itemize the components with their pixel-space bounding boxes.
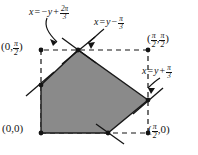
fraction-2pi-over-3: 2π3 [60, 6, 69, 21]
fraction-pi-over-3: π3 [118, 16, 124, 31]
label-top-right-point: (π2,π2) [147, 32, 169, 49]
label-bottom-right-point: (π2,0) [148, 123, 170, 140]
line-label-x-eq-y-minus-pi-over-3: x=y−π3 [94, 16, 124, 31]
label-origin: (0,0) [2, 123, 23, 134]
label-left-top-point: (0,π2) [1, 40, 23, 57]
line-label-x-eq-y-plus-pi-over-3: x=y+π3 [142, 65, 172, 80]
dot-bottom-edge [106, 131, 111, 136]
dot-right-vertex [146, 98, 151, 103]
fraction-pi-over-3: π3 [166, 65, 172, 80]
dot-left-vertex [39, 83, 44, 88]
leader-arrow-upper-left [46, 18, 57, 42]
line-label-x-eq-neg-y-plus-2pi-over-3: x=−y+2π3 [29, 6, 69, 21]
dot-origin [39, 131, 44, 136]
dot-left-top [39, 48, 44, 53]
dot-top-vertex [76, 48, 81, 53]
